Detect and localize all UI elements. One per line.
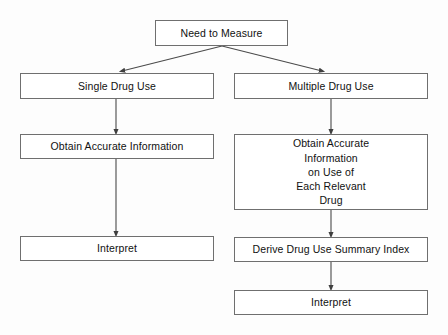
node-derive-drug-use-summary-index: Derive Drug Use Summary Index	[234, 237, 428, 262]
connector-need-to-measure-to-single-drug-use	[122, 46, 222, 71]
node-obtain-accurate-information-each-drug: Obtain Accurate Information on Use of Ea…	[234, 134, 428, 210]
node-single-drug-use: Single Drug Use	[20, 73, 214, 99]
node-multiple-drug-use: Multiple Drug Use	[234, 73, 428, 99]
node-obtain-accurate-information: Obtain Accurate Information	[20, 134, 214, 159]
node-interpret-left: Interpret	[20, 236, 214, 261]
connector-need-to-measure-to-multiple-drug-use	[222, 46, 322, 71]
node-interpret-right: Interpret	[234, 290, 428, 315]
node-need-to-measure: Need to Measure	[155, 20, 288, 46]
flowchart-diagram: Need to Measure Single Drug Use Multiple…	[0, 0, 448, 335]
